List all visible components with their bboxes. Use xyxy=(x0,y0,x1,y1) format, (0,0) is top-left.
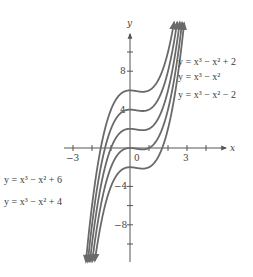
y-axis-label: y xyxy=(126,18,133,28)
y-tick-label: 8 xyxy=(120,66,126,76)
y-tick-label: −8 xyxy=(114,220,128,230)
x-tick-label: −3 xyxy=(66,153,80,163)
equation-label: y = x³ − x² + 6 xyxy=(4,174,62,185)
x-tick-label: 3 xyxy=(183,153,189,163)
equation-label: y = x³ − x² + 4 xyxy=(4,196,62,207)
curve-group xyxy=(86,22,184,262)
y-tick-label: −4 xyxy=(114,181,128,191)
cubic-family-graph: x y −30384−4−8 y = x³ − x² + 2y = x³ − x… xyxy=(0,0,253,277)
equation-label: y = x³ − x² − 2 xyxy=(178,89,236,100)
equation-label: y = x³ − x² xyxy=(178,71,220,82)
equation-label: y = x³ − x² + 2 xyxy=(178,56,236,67)
x-tick-label: 0 xyxy=(134,153,140,163)
x-axis-label: x xyxy=(230,143,235,153)
